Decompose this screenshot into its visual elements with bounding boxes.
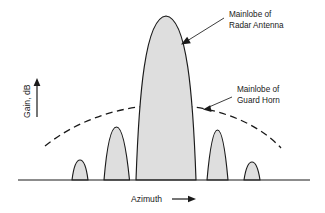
guard-horn-label-line1: Mainlobe of [237,85,280,94]
x-axis-arrow-head [188,196,196,202]
annotation-guard-horn: Mainlobe of Guard Horn [203,85,280,112]
x-axis-group: Azimuth [131,194,196,204]
y-axis-label: Gain, dB [22,84,32,118]
radar-antenna-pattern-figure: Gain, dB Azimuth Mainlobe of Radar Anten… [0,0,325,213]
guard-horn-leader-line [209,97,232,107]
radar-antenna-lobes [72,16,260,180]
lobe-sidelobe-left [104,127,130,180]
radar-antenna-label-line2: Radar Antenna [229,21,284,30]
radar-antenna-label-line1: Mainlobe of [229,10,272,19]
y-axis-arrow-head [34,78,41,86]
annotation-radar-antenna: Mainlobe of Radar Antenna [181,10,284,45]
figure-canvas: Gain, dB Azimuth Mainlobe of Radar Anten… [0,0,325,213]
lobe-sidelobe-far-left [72,160,88,180]
guard-horn-label-line2: Guard Horn [237,96,280,105]
x-axis-label: Azimuth [131,194,162,204]
y-axis-group: Gain, dB [22,78,40,118]
lobe-sidelobe-far-right [244,162,260,180]
radar-antenna-leader-line [187,18,224,41]
guard-horn-leader-arrowhead [203,105,212,112]
lobe-sidelobe-right [207,130,228,180]
